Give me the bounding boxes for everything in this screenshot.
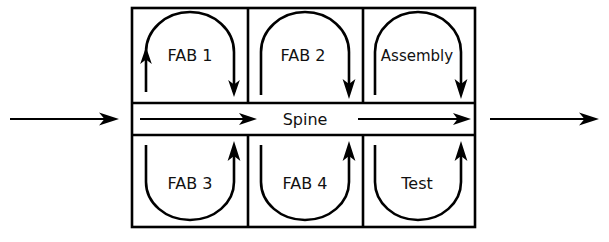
cell-fab-3: FAB 3: [146, 141, 240, 220]
output-arrow: [490, 113, 599, 126]
cell-fab-2: FAB 2: [261, 12, 355, 99]
cell-fab-1: FAB 1: [140, 12, 240, 97]
fab-4-label: FAB 4: [283, 174, 328, 193]
spine-label: Spine: [283, 110, 328, 129]
spine-band: Spine: [140, 107, 471, 131]
fab-2-label: FAB 2: [281, 46, 326, 65]
input-arrow: [10, 113, 119, 126]
fab-1-label: FAB 1: [168, 46, 213, 65]
cell-assembly: Assembly: [375, 12, 467, 99]
test-label: Test: [400, 174, 433, 193]
cell-test: Test: [375, 141, 467, 220]
cell-fab-4: FAB 4: [261, 141, 355, 220]
assembly-label: Assembly: [381, 47, 453, 65]
spine-flow-diagram: FAB 1 FAB 2 Assembly Spine: [0, 0, 609, 242]
fab-3-label: FAB 3: [168, 174, 213, 193]
flow-diagram-canvas: FAB 1 FAB 2 Assembly Spine: [0, 0, 609, 242]
